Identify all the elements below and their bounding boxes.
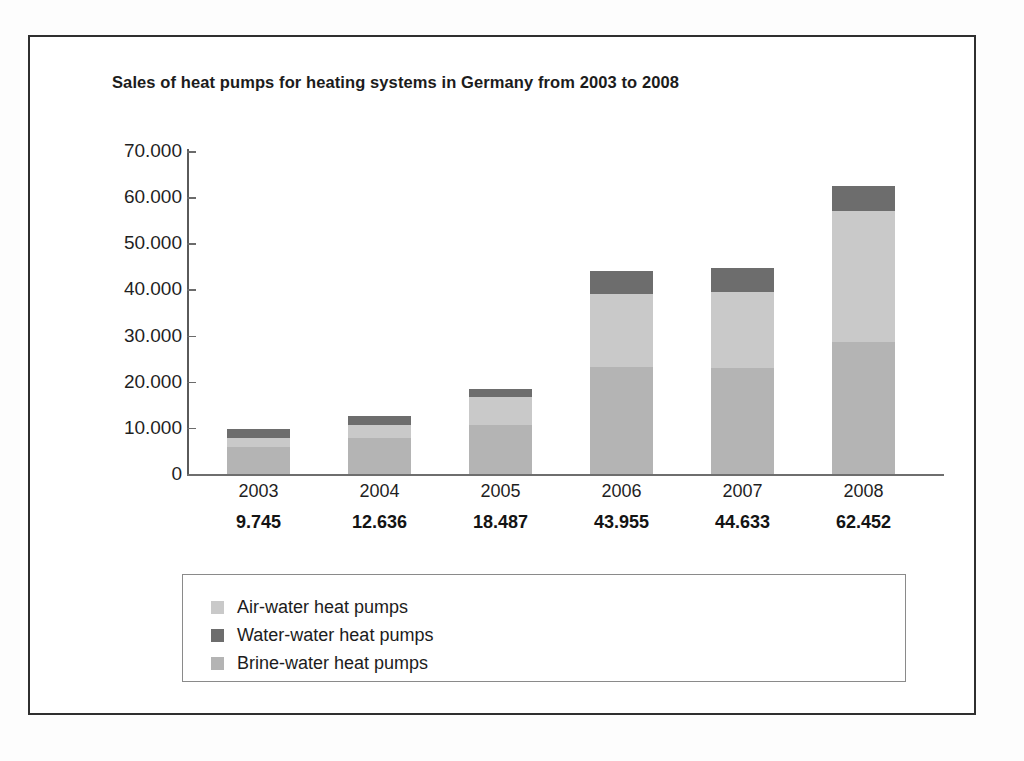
x-axis-total-label: 9.745 [199, 512, 319, 533]
legend-item[interactable]: Brine-water heat pumps [211, 651, 428, 675]
bar-segment-water-water-heat-pumps [469, 389, 532, 398]
x-axis-total-label: 62.452 [804, 512, 924, 533]
chart-frame: Sales of heat pumps for heating systems … [28, 35, 976, 715]
x-axis-category-label: 2006 [562, 481, 682, 502]
bar-segment-water-water-heat-pumps [832, 186, 895, 211]
bar-segment-brine-water-heat-pumps [711, 368, 774, 474]
y-axis-tick-mark [187, 336, 196, 338]
x-axis-total-label: 12.636 [320, 512, 440, 533]
x-axis-category-label: 2008 [804, 481, 924, 502]
legend-swatch-icon [211, 629, 224, 642]
bar-segment-water-water-heat-pumps [348, 416, 411, 425]
legend-swatch-icon [211, 657, 224, 670]
bar-segment-air-water-heat-pumps [469, 397, 532, 425]
y-axis-tick-mark [187, 243, 196, 245]
bar-segment-air-water-heat-pumps [832, 211, 895, 342]
x-axis-category-label: 2005 [441, 481, 561, 502]
y-axis-tick-mark [187, 428, 196, 430]
bar-segment-air-water-heat-pumps [227, 438, 290, 447]
x-axis-category-label: 2003 [199, 481, 319, 502]
y-axis-tick-mark [187, 382, 196, 384]
x-axis-total-label: 43.955 [562, 512, 682, 533]
bar-segment-air-water-heat-pumps [348, 425, 411, 438]
y-axis-tick-mark [187, 151, 196, 153]
legend-item-label: Brine-water heat pumps [237, 653, 428, 674]
legend-item-label: Water-water heat pumps [237, 625, 433, 646]
legend-item[interactable]: Air-water heat pumps [211, 595, 408, 619]
page-background: Sales of heat pumps for heating systems … [0, 0, 1024, 761]
bar-segment-air-water-heat-pumps [711, 292, 774, 369]
chart-legend: Air-water heat pumpsWater-water heat pum… [182, 574, 906, 682]
y-axis-tick-mark [187, 289, 196, 291]
legend-swatch-icon [211, 601, 224, 614]
bar-segment-water-water-heat-pumps [227, 429, 290, 438]
y-axis-tick-mark [187, 197, 196, 199]
bar-segment-water-water-heat-pumps [590, 271, 653, 293]
x-axis-category-label: 2007 [683, 481, 803, 502]
bar-segment-brine-water-heat-pumps [590, 367, 653, 474]
bar-segment-brine-water-heat-pumps [227, 447, 290, 474]
bar-segment-air-water-heat-pumps [590, 294, 653, 368]
bar-segment-water-water-heat-pumps [711, 268, 774, 292]
legend-item-label: Air-water heat pumps [237, 597, 408, 618]
bar-segment-brine-water-heat-pumps [469, 425, 532, 474]
x-axis-total-label: 44.633 [683, 512, 803, 533]
bar-segment-brine-water-heat-pumps [832, 342, 895, 474]
bar-segment-brine-water-heat-pumps [348, 438, 411, 474]
x-axis-category-label: 2004 [320, 481, 440, 502]
legend-item[interactable]: Water-water heat pumps [211, 623, 433, 647]
x-axis-total-label: 18.487 [441, 512, 561, 533]
